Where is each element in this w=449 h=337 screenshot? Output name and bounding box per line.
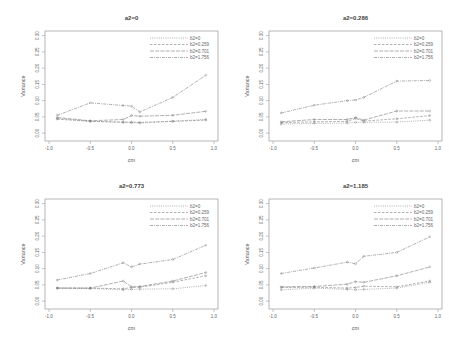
series-line-1	[281, 281, 430, 288]
x-tick-label: 1.0	[211, 146, 218, 151]
legend-label: b2=0	[190, 204, 201, 209]
legend-label: b2=0.259	[414, 42, 433, 47]
chart-panel-4: a2=1.185-1.0-0.50.00.51.00.000.050.100.1…	[224, 168, 448, 336]
chart-panel-3: a2=0.773-1.0-0.50.00.51.00.000.050.100.1…	[0, 168, 224, 336]
chart-grid: a2=0-1.0-0.50.00.51.00.000.050.100.150.2…	[0, 0, 449, 337]
legend-label: b2=0.701	[414, 49, 433, 54]
y-tick-label: 0.00	[35, 296, 40, 305]
y-tick-label: 0.30	[259, 199, 264, 208]
x-tick-label: 0.5	[170, 146, 177, 151]
x-tick-label: 0.5	[394, 314, 401, 319]
legend-label: b2=0.701	[190, 217, 209, 222]
y-tick-label: 0.10	[259, 96, 264, 105]
y-tick-label: 0.30	[35, 199, 40, 208]
y-tick-label: 0.25	[35, 215, 40, 224]
legend-label: b2=1.756	[414, 223, 433, 228]
y-tick-label: 0.15	[259, 248, 264, 257]
legend-label: b2=0.701	[190, 49, 209, 54]
y-tick-label: 0.25	[259, 47, 264, 56]
y-tick-label: 0.10	[35, 96, 40, 105]
x-tick-label: 0.0	[128, 314, 135, 319]
y-tick-label: 0.15	[35, 80, 40, 89]
x-tick-label: 1.0	[211, 314, 218, 319]
y-tick-label: 0.15	[259, 80, 264, 89]
y-tick-label: 0.05	[259, 280, 264, 289]
x-tick-label: -1.0	[45, 146, 53, 151]
y-tick-label: 0.05	[259, 112, 264, 121]
y-tick-label: 0.15	[35, 248, 40, 257]
y-axis-label: Variance	[20, 243, 26, 264]
x-tick-label: -1.0	[269, 146, 277, 151]
x-tick-label: 1.0	[435, 146, 442, 151]
panel-title: a2=0.773	[119, 183, 145, 189]
x-tick-label: 0.0	[352, 146, 359, 151]
chart-panel-2: a2=0.286-1.0-0.50.00.51.00.000.050.100.1…	[224, 0, 448, 168]
legend-label: b2=0	[190, 36, 201, 41]
legend-label: b2=0	[414, 36, 425, 41]
y-tick-label: 0.25	[35, 47, 40, 56]
x-axis-label: cm	[128, 325, 136, 331]
legend-label: b2=0.259	[190, 42, 209, 47]
legend-label: b2=0.259	[190, 210, 209, 215]
y-tick-label: 0.30	[35, 31, 40, 40]
y-tick-label: 0.20	[35, 63, 40, 72]
series-line-1	[57, 276, 206, 289]
x-axis-label: cm	[352, 325, 360, 331]
data-point	[429, 80, 431, 82]
panel-title: a2=1.185	[343, 183, 369, 189]
x-tick-label: 0.5	[394, 146, 401, 151]
data-point	[429, 110, 431, 112]
x-tick-label: -0.5	[310, 314, 318, 319]
y-tick-label: 0.20	[35, 231, 40, 240]
series-line-2	[281, 111, 430, 122]
y-tick-label: 0.20	[259, 231, 264, 240]
panel-title: a2=0.286	[343, 15, 369, 21]
x-tick-label: 0.0	[352, 314, 359, 319]
x-tick-label: -1.0	[45, 314, 53, 319]
x-tick-label: -0.5	[86, 314, 94, 319]
panel-title: a2=0	[125, 15, 139, 21]
legend-label: b2=1.756	[190, 55, 209, 60]
legend-label: b2=0.259	[414, 210, 433, 215]
series-line-2	[57, 111, 206, 121]
series-line-3	[281, 81, 430, 114]
legend-label: b2=0	[414, 204, 425, 209]
legend-label: b2=1.756	[414, 55, 433, 60]
y-tick-label: 0.00	[259, 128, 264, 137]
series-line-3	[57, 75, 206, 115]
x-tick-label: 0.0	[128, 146, 135, 151]
x-axis-label: cm	[352, 157, 360, 163]
y-tick-label: 0.25	[259, 215, 264, 224]
y-axis-label: Variance	[244, 75, 250, 96]
y-tick-label: 0.30	[259, 31, 264, 40]
x-tick-label: 0.5	[170, 314, 177, 319]
legend-label: b2=0.701	[414, 217, 433, 222]
y-tick-label: 0.10	[35, 264, 40, 273]
chart-panel-1: a2=0-1.0-0.50.00.51.00.000.050.100.150.2…	[0, 0, 224, 168]
series-line-3	[281, 237, 430, 274]
y-axis-label: Variance	[20, 75, 26, 96]
y-tick-label: 0.00	[259, 296, 264, 305]
data-point	[429, 266, 431, 268]
x-tick-label: -1.0	[269, 314, 277, 319]
series-line-3	[57, 245, 206, 280]
y-axis-label: Variance	[244, 243, 250, 264]
x-tick-label: -0.5	[86, 146, 94, 151]
y-tick-label: 0.00	[35, 128, 40, 137]
y-tick-label: 0.20	[259, 63, 264, 72]
x-tick-label: -0.5	[310, 146, 318, 151]
y-tick-label: 0.10	[259, 264, 264, 273]
x-tick-label: 1.0	[435, 314, 442, 319]
legend-label: b2=1.756	[190, 223, 209, 228]
y-tick-label: 0.05	[35, 280, 40, 289]
x-axis-label: cm	[128, 157, 136, 163]
y-tick-label: 0.05	[35, 112, 40, 121]
